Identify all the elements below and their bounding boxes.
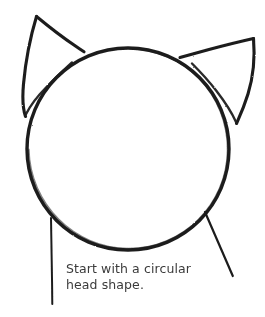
right-ear-base-shade	[192, 64, 236, 123]
right-ear-inner-edge	[180, 39, 254, 58]
instruction-caption: Start with a circular head shape.	[66, 261, 246, 293]
head-circle-overdraw	[29, 49, 228, 249]
illustration-page: Start with a circular head shape.	[0, 0, 265, 317]
left-ear-inner-edge	[37, 17, 85, 52]
right-ear-outer-edge	[237, 39, 255, 124]
left-jaw-line	[51, 218, 52, 304]
